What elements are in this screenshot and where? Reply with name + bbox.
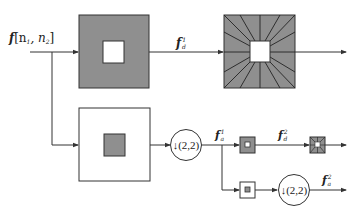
- lowpass-filter-1: [79, 108, 150, 181]
- branch-line-lowpass-2: [222, 145, 239, 190]
- downsample-2-label: ↓(2,2): [281, 184, 308, 197]
- downsample-1-label: ↓(2,2): [173, 139, 200, 152]
- filter-bank-diagram: f[n1, n2] f1d: [0, 0, 359, 218]
- input-signal-label: f[n1, n2]: [8, 31, 54, 45]
- highpass-filter-2: [240, 137, 255, 153]
- signal-label-fd1: f1d: [175, 36, 186, 50]
- branch-line-lowpass: [52, 52, 78, 145]
- directional-filter-2: [310, 137, 325, 153]
- downsample-2: ↓(2,2): [279, 175, 310, 206]
- highpass-filter-1: [79, 15, 149, 88]
- signal-label-fd2: f2d: [277, 128, 288, 142]
- directional-filter-1: [224, 15, 295, 88]
- signal-label-fa2: f2a: [321, 173, 332, 187]
- downsample-1: ↓(2,2): [171, 130, 202, 161]
- signal-label-fa1: f1a: [214, 128, 225, 142]
- lowpass-filter-2: [240, 182, 255, 198]
